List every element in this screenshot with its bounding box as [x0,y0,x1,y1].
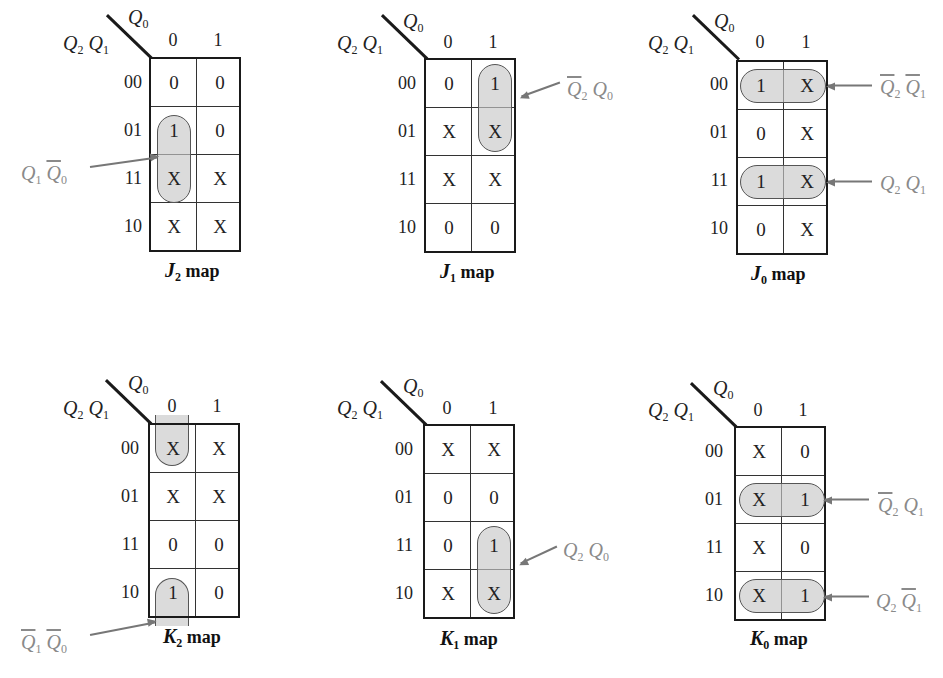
group-term-label: Q2 Q1 [878,494,924,520]
cell-10-0: X [736,572,782,621]
arrow-icon [520,546,557,564]
cell-01-1: X [472,108,518,157]
arrow-icon [825,596,869,598]
row-label-11: 11 [693,537,723,558]
cell-10-1: 0 [196,569,242,618]
row-label-01: 01 [383,487,413,508]
cell-11-1: 1 [471,522,517,571]
cell-01-1: 0 [471,474,517,523]
group-term-label: Q1 Q0 [21,631,67,657]
cell-10-1: 1 [782,572,828,621]
cell-01-0: 0 [738,110,784,159]
row-variable-label: Q2 Q1 [337,32,383,58]
map-title: K0 map [750,627,808,653]
group-term-label: Q2 Q1 [880,76,926,102]
row-label-11: 11 [383,535,413,556]
cell-10-1: X [784,206,830,255]
row-label-00: 00 [698,74,728,95]
cell-11-1: 0 [196,521,242,570]
cell-00-0: X [425,426,471,475]
col-label-1: 1 [483,398,503,419]
row-label-10: 10 [109,582,139,603]
row-label-01: 01 [698,122,728,143]
map-title: J1 map [440,260,495,286]
group-term-label: Q2 Q1 [880,172,926,198]
cell-10-1: X [471,570,517,619]
cell-11-0: 1 [738,158,784,207]
col-label-0: 0 [750,32,770,53]
cell-11-0: X [426,156,472,205]
cell-10-1: 0 [472,204,518,253]
cell-00-1: X [471,426,517,475]
row-label-01: 01 [386,121,416,142]
arrow-icon [828,85,872,87]
group-term-label: Q2 Q0 [563,539,609,565]
cell-01-1: X [196,473,242,522]
row-label-00: 00 [383,439,413,460]
row-variable-label: Q2 Q1 [648,32,694,58]
kmap-k0: Q2 Q1 Q0 0 1 00 01 11 10 X 0 X 1 X 0 X 1… [0,0,300,330]
cell-00-1: X [784,62,830,111]
col-variable-label: Q0 [714,10,734,36]
row-label-11: 11 [698,170,728,191]
col-label-1: 1 [793,400,813,421]
row-label-10: 10 [698,218,728,239]
col-variable-label: Q0 [403,10,423,36]
kmap-grid: X 0 X 1 X 0 X 1 [734,426,826,621]
cell-01-1: X [784,110,830,159]
cell-00-1: 1 [472,60,518,109]
cell-10-0: 0 [738,206,784,255]
col-variable-label: Q0 [713,377,733,403]
cell-00-0: 0 [426,60,472,109]
cell-10-0: 0 [426,204,472,253]
col-label-0: 0 [162,396,182,417]
row-label-00: 00 [693,441,723,462]
cell-11-1: X [472,156,518,205]
cell-00-0: 1 [738,62,784,111]
col-label-0: 0 [748,400,768,421]
kmap-grid: X X X X 0 0 1 0 [148,423,240,618]
col-label-0: 0 [437,398,457,419]
cell-00-0: X [150,425,196,474]
row-label-00: 00 [386,73,416,94]
cell-01-1: 1 [782,476,828,525]
cell-00-1: X [196,425,242,474]
arrow-icon [90,621,155,635]
cell-11-0: X [736,524,782,573]
kmap-grid: 0 1 X X X X 0 0 [424,58,516,253]
map-title: K1 map [440,627,498,653]
map-title: J0 map [751,262,806,288]
row-variable-label: Q2 Q1 [648,399,694,425]
col-label-1: 1 [796,32,816,53]
col-label-0: 0 [438,32,458,53]
cell-01-0: X [150,473,196,522]
cell-11-1: 0 [782,524,828,573]
row-label-10: 10 [383,583,413,604]
cell-11-0: 0 [425,522,471,571]
row-variable-label: Q2 Q1 [337,397,383,423]
cell-01-0: X [426,108,472,157]
group-term-label: Q2 Q1 [876,590,922,616]
cell-00-0: X [736,428,782,477]
arrow-icon [521,82,560,97]
row-label-11: 11 [109,534,139,555]
col-label-1: 1 [207,396,227,417]
map-title: K2 map [163,625,221,651]
col-label-1: 1 [483,32,503,53]
arrow-icon [828,181,872,183]
row-label-01: 01 [693,489,723,510]
row-label-00: 00 [109,438,139,459]
cell-11-1: X [784,158,830,207]
kmap-grid: X X 0 0 0 1 X X [423,424,515,619]
cell-01-0: 0 [425,474,471,523]
cell-10-0: X [425,570,471,619]
row-label-11: 11 [386,169,416,190]
col-variable-label: Q0 [128,372,148,398]
row-variable-label: Q2 Q1 [63,397,109,423]
cell-00-1: 0 [782,428,828,477]
cell-10-0: 1 [150,569,196,618]
arrow-icon [825,499,869,501]
col-variable-label: Q0 [403,375,423,401]
cell-01-0: X [736,476,782,525]
row-label-01: 01 [109,486,139,507]
